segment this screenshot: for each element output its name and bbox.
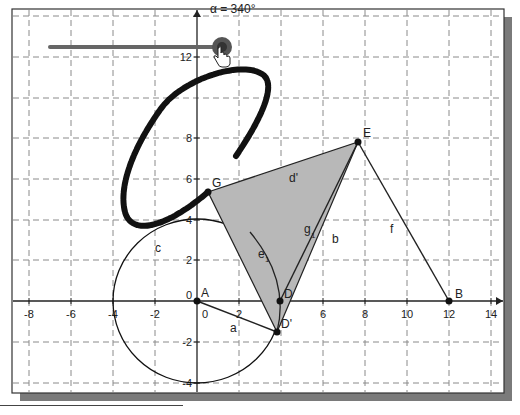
label-D-prime: D' xyxy=(281,317,292,331)
label-B: B xyxy=(455,287,463,301)
label-g1-subscript: 1 xyxy=(311,231,316,240)
svg-text:8: 8 xyxy=(362,308,368,320)
label-b: b xyxy=(332,232,339,246)
point-A[interactable] xyxy=(194,298,201,305)
label-A: A xyxy=(201,286,209,300)
svg-text:12: 12 xyxy=(443,308,455,320)
svg-text:-2: -2 xyxy=(150,308,160,320)
label-g1: g xyxy=(304,222,311,236)
svg-text:14: 14 xyxy=(485,308,497,320)
label-E: E xyxy=(363,126,371,140)
graphics-view[interactable]: -8 -6 -4 -2 0 2 6 8 10 12 14 12 8 6 4 2 … xyxy=(0,0,520,415)
label-e1: e xyxy=(258,247,265,261)
svg-text:-8: -8 xyxy=(24,308,34,320)
label-e1-subscript: 1 xyxy=(265,255,270,264)
svg-text:-6: -6 xyxy=(66,308,76,320)
svg-text:2: 2 xyxy=(186,254,192,266)
svg-text:12: 12 xyxy=(180,51,192,63)
svg-text:10: 10 xyxy=(401,308,413,320)
svg-text:8: 8 xyxy=(186,132,192,144)
svg-text:6: 6 xyxy=(186,173,192,185)
point-D[interactable] xyxy=(277,298,284,305)
slider-alpha-label: α = 340° xyxy=(210,2,255,16)
point-G[interactable] xyxy=(205,189,212,196)
geometry-canvas[interactable]: -8 -6 -4 -2 0 2 6 8 10 12 14 12 8 6 4 2 … xyxy=(0,0,520,415)
label-d-prime: d' xyxy=(289,171,298,185)
svg-text:-2: -2 xyxy=(182,336,192,348)
svg-text:0: 0 xyxy=(186,289,192,301)
svg-text:6: 6 xyxy=(320,308,326,320)
svg-text:0: 0 xyxy=(202,308,208,320)
label-G: G xyxy=(212,176,221,190)
label-c: c xyxy=(155,241,161,255)
label-D: D xyxy=(284,287,293,301)
label-a: a xyxy=(230,321,237,335)
point-E[interactable] xyxy=(355,139,362,146)
point-B[interactable] xyxy=(446,298,453,305)
bottom-divider xyxy=(0,405,183,406)
point-D-prime[interactable] xyxy=(274,329,281,336)
hand-cursor-icon xyxy=(212,46,232,70)
